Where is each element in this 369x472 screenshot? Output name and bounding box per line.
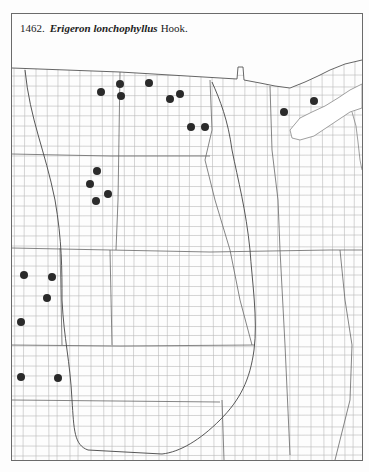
occurrence-dot — [48, 273, 56, 281]
occurrence-dot — [176, 90, 184, 98]
occurrence-dot — [20, 271, 28, 279]
occurrence-dot — [280, 108, 288, 116]
occurrence-dot — [17, 318, 25, 326]
lake-michigan-shore — [352, 112, 362, 170]
occurrence-dot — [54, 374, 62, 382]
occurrence-dot — [86, 180, 94, 188]
occurrence-dot — [93, 167, 101, 175]
boundary-curves — [25, 70, 255, 454]
occurrence-dot — [117, 92, 125, 100]
occurrence-dot — [116, 80, 124, 88]
lake-superior — [290, 84, 362, 140]
occurrence-dot — [92, 197, 100, 205]
occurrence-dot — [187, 123, 195, 131]
occurrence-dot — [104, 190, 112, 198]
occurrence-dot — [145, 79, 153, 87]
international-border — [12, 60, 362, 88]
map-page: 1462.Erigeron lonchophyllusHook. — [0, 0, 369, 472]
occurrence-dot — [43, 294, 51, 302]
occurrence-dot — [201, 123, 209, 131]
occurrence-dot — [17, 373, 25, 381]
distribution-map — [0, 0, 369, 472]
occurrence-dot — [310, 97, 318, 105]
occurrence-dot — [97, 88, 105, 96]
occurrence-dot — [166, 95, 174, 103]
